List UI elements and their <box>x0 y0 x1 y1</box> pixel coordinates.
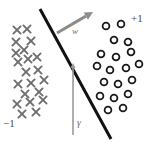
marker-x <box>22 68 29 75</box>
marker-circle <box>136 61 143 68</box>
marker-x <box>12 49 19 56</box>
marker-x <box>14 80 21 87</box>
marker-x <box>13 26 20 33</box>
marker-x <box>14 58 21 65</box>
marker-x <box>32 108 39 115</box>
marker-x <box>33 53 40 60</box>
marker-circle <box>98 51 105 58</box>
marker-circle <box>103 23 110 30</box>
marker-x <box>27 37 34 44</box>
marker-circle <box>111 95 118 102</box>
marker-x <box>27 79 34 86</box>
marker-circle <box>129 77 136 84</box>
marker-circle <box>115 81 122 88</box>
marker-x <box>26 98 33 105</box>
marker-x <box>40 76 47 83</box>
negative-class-markers <box>12 25 47 117</box>
positive-class-label: +1 <box>131 13 143 24</box>
marker-x <box>39 96 46 103</box>
marker-circle <box>101 79 108 86</box>
marker-x <box>23 25 30 32</box>
marker-circle <box>118 21 125 28</box>
marker-circle <box>94 63 101 70</box>
marker-x <box>35 88 42 95</box>
marker-circle <box>125 91 132 98</box>
marker-x <box>12 38 19 45</box>
marker-circle <box>111 37 118 44</box>
marker-circle <box>120 105 127 112</box>
marker-x <box>20 46 27 53</box>
marker-x <box>18 110 25 117</box>
marker-x <box>13 100 20 107</box>
marker-circle <box>125 39 132 46</box>
marker-x <box>21 90 28 97</box>
negative-class-label: −1 <box>3 118 15 129</box>
positive-class-markers <box>94 21 143 114</box>
svm-margin-figure: +1 −1 w γ <box>0 0 153 145</box>
margin-label: γ <box>77 118 81 128</box>
weight-vector-label: w <box>72 27 78 36</box>
marker-circle <box>123 65 130 72</box>
marker-circle <box>107 67 114 74</box>
marker-circle <box>105 107 112 114</box>
marker-circle <box>97 93 104 100</box>
marker-circle <box>113 54 120 61</box>
marker-x <box>34 66 41 73</box>
marker-x <box>24 55 31 62</box>
marker-circle <box>128 49 135 56</box>
